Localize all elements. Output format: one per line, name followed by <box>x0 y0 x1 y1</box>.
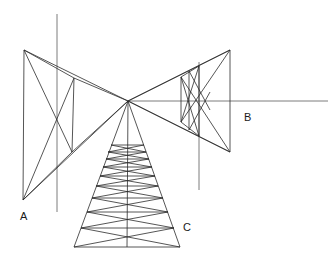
left-inner-vertical-edge <box>72 78 74 152</box>
tower-brace <box>87 212 174 228</box>
diagram-canvas: A B C <box>0 0 330 264</box>
right-inner-diagonal-down <box>181 77 199 136</box>
left-upper-chord-to-vp <box>74 78 128 101</box>
left-figure-group <box>23 50 128 200</box>
left-bottom-edge-inner <box>23 152 72 200</box>
right-inner-brace-down <box>189 71 210 110</box>
right-diagonal-to-vp-upper <box>128 50 230 101</box>
tower-brace <box>92 186 158 198</box>
tower-brace <box>106 159 152 167</box>
tower-brace <box>100 167 152 176</box>
tower-brace <box>103 167 155 176</box>
right-inner-brace-up <box>189 92 210 130</box>
left-outer-vertical-edge <box>23 50 24 200</box>
tower-brace <box>87 198 163 212</box>
tower-brace <box>111 145 146 152</box>
vertex-labels-group: A B C <box>20 111 251 233</box>
right-outer-diagonal-up <box>181 77 230 152</box>
tower-brace <box>103 159 149 167</box>
tower-brace <box>100 176 158 186</box>
right-outer-diagonal-down <box>181 50 230 122</box>
label-c: C <box>183 221 191 233</box>
tower-brace <box>81 212 168 228</box>
geometry-drawing: A B C <box>0 0 330 264</box>
tower-brace <box>96 186 163 198</box>
tower-left-edge <box>74 101 128 247</box>
tower-brace <box>108 145 144 152</box>
left-lower-chord-to-vp <box>72 101 128 152</box>
tower-brace <box>81 228 180 247</box>
tower-brace <box>96 176 155 186</box>
left-top-ray-to-vp <box>24 50 128 101</box>
left-top-edge-inner <box>24 50 74 78</box>
tower-brace <box>92 198 168 212</box>
label-b: B <box>244 111 251 123</box>
tower-figure-group <box>74 101 180 247</box>
right-inner-diagonal-up <box>181 66 199 122</box>
label-a: A <box>20 210 28 222</box>
left-diagonal-up <box>23 78 74 200</box>
tower-brace <box>74 228 174 247</box>
tower-center-axis <box>127 101 128 247</box>
